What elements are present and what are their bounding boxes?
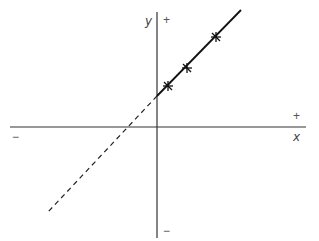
x-axis-label: x <box>293 131 300 143</box>
y-axis-label: y <box>145 15 152 27</box>
data-point-marker <box>211 32 221 42</box>
graph-canvas <box>0 0 319 241</box>
data-point-marker <box>182 63 192 73</box>
x-negative-sign: − <box>12 131 19 143</box>
extrapolated-dashed-line <box>48 96 157 212</box>
y-positive-sign: + <box>163 14 170 26</box>
y-negative-sign: − <box>163 225 170 237</box>
x-positive-sign: + <box>293 110 300 122</box>
